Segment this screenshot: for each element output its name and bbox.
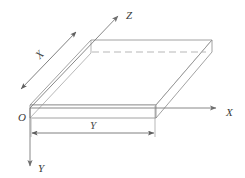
z-axis-label: Z <box>126 9 133 21</box>
origin-label: O <box>18 111 26 123</box>
x-dimension-label: X <box>32 47 47 62</box>
plate-front-face <box>30 105 156 118</box>
y-dimension-label: Y <box>90 119 98 131</box>
technical-diagram: O X Y Z X Y <box>0 0 245 178</box>
diagram-canvas: O X Y Z X Y <box>0 0 245 178</box>
y-axis-label: Y <box>38 162 46 174</box>
x-axis-label: X <box>225 106 234 118</box>
